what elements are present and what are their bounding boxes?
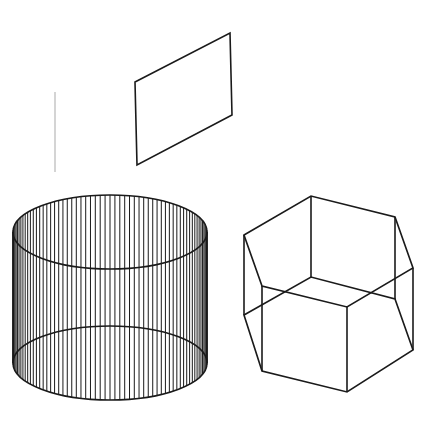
figure-svg [0, 0, 440, 426]
drawing-canvas [0, 0, 440, 426]
